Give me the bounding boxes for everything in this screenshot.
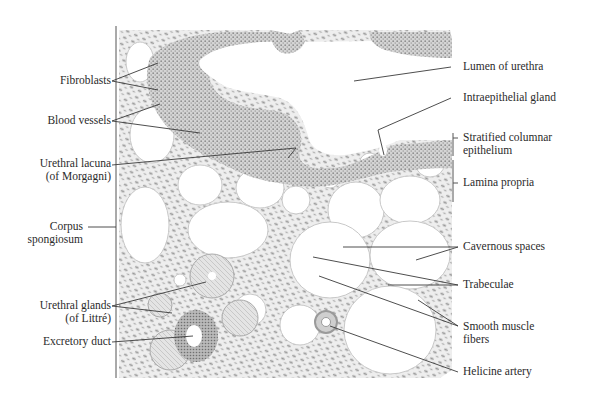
- label-line: spongiosum: [27, 233, 83, 246]
- label-line: Stratified columnar: [463, 131, 552, 144]
- label-line: Lumen of urethra: [463, 60, 543, 73]
- label-blood-vessels: Blood vessels: [47, 114, 111, 127]
- label-lamina-propria: Lamina propria: [463, 176, 534, 189]
- label-urethral-lacuna: Urethral lacuna (of Morgagni): [40, 157, 111, 183]
- tissue-region: [119, 28, 454, 380]
- label-smooth-muscle-fibers: Smooth muscle fibers: [463, 320, 534, 346]
- label-corpus-spongiosum: Corpus spongiosum: [27, 220, 83, 246]
- label-line: Trabeculae: [463, 278, 514, 291]
- helicine-artery-shape: [315, 311, 337, 333]
- label-line: Lamina propria: [463, 176, 534, 189]
- label-trabeculae: Trabeculae: [463, 278, 514, 291]
- label-line: (of Littré): [40, 312, 111, 325]
- label-line: fibers: [463, 333, 534, 346]
- label-line: (of Morgagni): [40, 170, 111, 183]
- layer-bracket: [453, 133, 458, 202]
- label-line: Urethral glands: [40, 299, 111, 312]
- label-lumen-of-urethra: Lumen of urethra: [463, 60, 543, 73]
- label-cavernous-spaces: Cavernous spaces: [463, 240, 545, 253]
- label-urethral-glands: Urethral glands (of Littré): [40, 299, 111, 325]
- label-stratified-columnar-epithelium: Stratified columnar epithelium: [463, 131, 552, 157]
- label-line: Urethral lacuna: [40, 157, 111, 170]
- label-line: Corpus: [27, 220, 83, 233]
- excretory-duct-shape: [174, 310, 218, 362]
- label-line: Helicine artery: [463, 365, 532, 378]
- label-line: Intraepithelial gland: [463, 91, 556, 104]
- label-helicine-artery: Helicine artery: [463, 365, 532, 378]
- label-line: Fibroblasts: [60, 74, 111, 87]
- label-line: Excretory duct: [43, 335, 111, 348]
- label-line: Smooth muscle: [463, 320, 534, 333]
- label-intraepithelial-gland: Intraepithelial gland: [463, 91, 556, 104]
- label-fibroblasts: Fibroblasts: [60, 74, 111, 87]
- label-excretory-duct: Excretory duct: [43, 335, 111, 348]
- label-line: Blood vessels: [47, 114, 111, 127]
- label-line: epithelium: [463, 144, 552, 157]
- label-line: Cavernous spaces: [463, 240, 545, 253]
